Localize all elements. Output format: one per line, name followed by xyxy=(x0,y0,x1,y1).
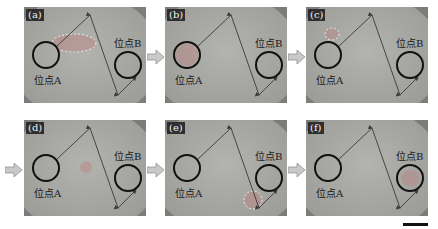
panel-b: 位点A 位点B (b) xyxy=(165,7,287,103)
site-a-label: 位点A xyxy=(316,187,344,199)
panel-label: (e) xyxy=(167,122,185,134)
right-arrow-icon xyxy=(5,162,22,181)
site-b-label: 位点B xyxy=(114,150,141,162)
petri-dish-image: 位点A 位点B xyxy=(165,7,287,103)
scale-bar xyxy=(403,223,428,226)
panel-d: 位点A 位点B (d) xyxy=(24,120,146,216)
panel-label: (d) xyxy=(26,122,44,134)
petri-dish-image: 位点A 位点B xyxy=(306,7,428,103)
panel-label: (b) xyxy=(167,9,185,21)
site-b-label: 位点B xyxy=(255,37,282,49)
panel-f: 位点A 位点B (f) xyxy=(306,120,428,216)
panel-label: (c) xyxy=(308,9,325,21)
right-arrow-icon xyxy=(288,162,305,181)
site-a-label: 位点A xyxy=(175,74,203,86)
droplet xyxy=(244,191,262,209)
droplet xyxy=(176,44,198,66)
petri-dish-image: 位点A 位点B xyxy=(24,7,146,103)
panel-label: (f) xyxy=(308,122,324,134)
droplet xyxy=(401,170,419,186)
petri-dish-image: 位点A 位点B xyxy=(165,120,287,216)
panel-e: 位点A 位点B (e) xyxy=(165,120,287,216)
site-b-label: 位点B xyxy=(114,37,141,49)
right-arrow-icon xyxy=(147,49,164,68)
site-b-label: 位点B xyxy=(396,37,423,49)
site-b-label: 位点B xyxy=(255,150,282,162)
panel-label: (a) xyxy=(26,9,44,21)
droplet xyxy=(325,28,339,40)
panel-a: 位点A 位点B (a) xyxy=(24,7,146,103)
site-b-label: 位点B xyxy=(396,150,423,162)
right-arrow-icon xyxy=(147,162,164,181)
right-arrow-icon xyxy=(288,49,305,68)
site-a-label: 位点A xyxy=(175,187,203,199)
petri-dish-image: 位点A 位点B xyxy=(24,120,146,216)
petri-dish-image: 位点A 位点B xyxy=(306,120,428,216)
site-a-label: 位点A xyxy=(34,74,62,86)
site-a-label: 位点A xyxy=(34,187,62,199)
panel-c: 位点A 位点B (c) xyxy=(306,7,428,103)
droplet xyxy=(80,161,92,173)
site-a-label: 位点A xyxy=(316,74,344,86)
